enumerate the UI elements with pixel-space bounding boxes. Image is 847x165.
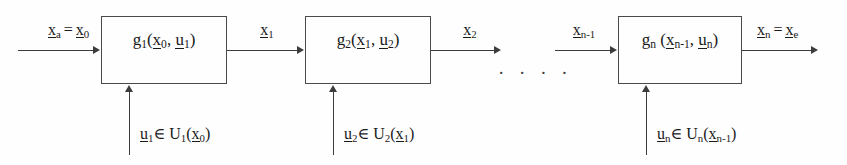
vector-x: x: [357, 32, 366, 49]
vector-u: u: [657, 126, 665, 142]
stage-1-input-arrowhead: [93, 46, 100, 54]
stage-2-control-arrowhead: [329, 85, 337, 92]
stage-1-control-label: u1∈ U1(x0): [140, 126, 210, 142]
ellipsis-dots: · · · ·: [498, 63, 573, 82]
vector-x: x: [709, 126, 717, 142]
stage-n-control-line: [646, 92, 647, 155]
vector-u: u: [175, 32, 184, 49]
diagram-canvas: xa=x0 g1(x0, u1) u1∈ U1(x0) x1 g2(x1, u2…: [0, 0, 847, 165]
vector-u: u: [379, 32, 388, 49]
stage-n-block-label: gn (xn-1, un): [619, 31, 741, 49]
vector-x: x: [76, 22, 84, 38]
vector-u: u: [344, 126, 352, 142]
stage-1-control-line: [129, 92, 130, 155]
stage-n-output-arrowhead: [811, 46, 818, 54]
stage-1-control-arrowhead: [125, 85, 133, 92]
stage-2-output-line: [431, 50, 495, 51]
vector-x: x: [757, 22, 765, 38]
stage-n-output-label: xn=xe: [757, 22, 798, 38]
stage-n-block[interactable]: gn (xn-1, un): [618, 16, 742, 84]
vector-x: x: [48, 22, 56, 38]
vector-x: x: [192, 126, 200, 142]
stage-2-block[interactable]: g2(x1, u2): [305, 16, 431, 84]
stage-2-control-label: u2∈ U2(x1): [344, 126, 414, 142]
stage-n-control-label: un∈ Un(xn-1): [657, 126, 736, 142]
vector-u: u: [698, 32, 707, 49]
stage-2-block-label: g2(x1, u2): [306, 31, 430, 49]
stage-n-control-arrowhead: [642, 85, 650, 92]
vector-x: x: [396, 126, 404, 142]
stage-n-output-line: [742, 50, 812, 51]
vector-u: u: [140, 126, 148, 142]
stage-n-input-line: [555, 50, 611, 51]
stage-1-output-label: x1: [235, 22, 299, 38]
stage-1-output-arrowhead: [297, 46, 304, 54]
stage-1-input-label: xa=x0: [48, 22, 89, 38]
stage-n-input-arrowhead: [610, 46, 617, 54]
stage-n-input-label: xn-1: [553, 22, 615, 38]
stage-1-block-label: g1(x0, u1): [102, 31, 226, 49]
vector-x: x: [153, 32, 162, 49]
stage-2-output-label: x2: [440, 22, 500, 38]
stage-1-output-line: [227, 50, 298, 51]
vector-x: x: [573, 22, 581, 38]
stage-2-control-line: [333, 92, 334, 155]
stage-1-input-line: [18, 50, 94, 51]
stage-1-block[interactable]: g1(x0, u1): [101, 16, 227, 84]
stage-2-output-arrowhead: [494, 46, 501, 54]
